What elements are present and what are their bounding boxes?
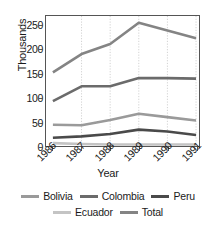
plot-area [45, 15, 200, 147]
legend-item-total[interactable]: Total [120, 206, 163, 218]
line-chart: Thousands 050100150200250 19861987198819… [0, 0, 216, 228]
chart-legend: BoliviaColombiaPeruEcuadorTotal [0, 188, 216, 220]
y-tick-mark [39, 25, 43, 26]
legend-swatch-icon [53, 211, 71, 214]
series-line-peru [53, 130, 196, 138]
y-tick-mark [39, 49, 43, 50]
legend-label: Peru [173, 190, 194, 202]
legend-swatch-icon [120, 211, 138, 214]
series-lines [46, 16, 199, 146]
y-tick-mark [39, 123, 43, 124]
legend-label: Bolivia [43, 190, 73, 202]
legend-swatch-icon [80, 195, 98, 198]
legend-item-ecuador[interactable]: Ecuador [53, 206, 113, 218]
series-line-colombia [53, 78, 196, 101]
legend-swatch-icon [21, 195, 39, 198]
legend-label: Ecuador [75, 206, 113, 218]
legend-item-bolivia[interactable]: Bolivia [21, 190, 73, 202]
series-line-total [53, 23, 196, 73]
y-tick-mark [39, 74, 43, 75]
legend-item-peru[interactable]: Peru [151, 190, 194, 202]
legend-row: EcuadorTotal [0, 204, 216, 220]
x-axis-title: Year [0, 167, 216, 179]
legend-item-colombia[interactable]: Colombia [80, 190, 145, 202]
legend-label: Colombia [102, 190, 145, 202]
y-tick-mark [39, 98, 43, 99]
series-line-bolivia [53, 114, 196, 126]
legend-swatch-icon [151, 195, 169, 198]
legend-label: Total [142, 206, 163, 218]
legend-row: BoliviaColombiaPeru [0, 188, 216, 204]
